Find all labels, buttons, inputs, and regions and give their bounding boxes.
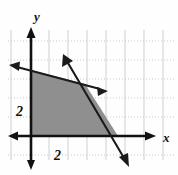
- x-axis-arrowhead-left: [8, 132, 18, 141]
- x-axis-tick-label-2: 2: [53, 148, 61, 163]
- y-axis-arrowhead: [27, 27, 36, 38]
- coordinate-plane-svg: y x 2 2: [0, 0, 178, 175]
- x-axis-label: x: [162, 130, 170, 145]
- y-axis-tick-label-2: 2: [15, 104, 23, 119]
- boundary-line-steep-arrowhead-down: [119, 153, 129, 167]
- y-axis-arrowhead-down: [27, 160, 35, 170]
- graph-figure: y x 2 2: [0, 0, 178, 175]
- x-axis-arrowhead: [145, 132, 156, 141]
- y-axis-label: y: [32, 9, 40, 24]
